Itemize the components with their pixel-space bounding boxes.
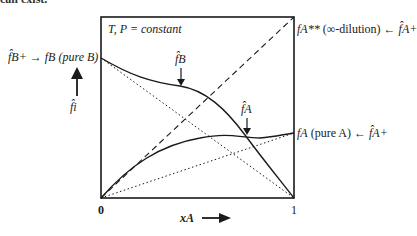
ideal-line-a (101, 133, 294, 198)
x-axis-label: xA (180, 211, 194, 225)
infinite-dilution-label: fA** (∞-dilution) ← f̂A+ (297, 22, 417, 36)
pure-a-label: fA (pure A) ← f̂A+ (297, 126, 388, 140)
fi-axis-label: f̂i (70, 100, 77, 114)
henrys-law-line (101, 17, 294, 198)
arrow-down-icon (177, 79, 185, 86)
x-tick-0: 0 (98, 203, 104, 217)
condition-label: T, P = constant (108, 22, 182, 36)
x-tick-1: 1 (291, 203, 297, 217)
arrow-up-icon (71, 67, 83, 79)
fb-curve-label: f̂B (175, 52, 186, 66)
arrow-right-icon (219, 213, 231, 223)
fa-curve-label: f̂A (241, 102, 252, 116)
pure-b-label: f̂B+ → fB (pure B) (8, 50, 98, 64)
ideal-line-b (101, 58, 294, 198)
